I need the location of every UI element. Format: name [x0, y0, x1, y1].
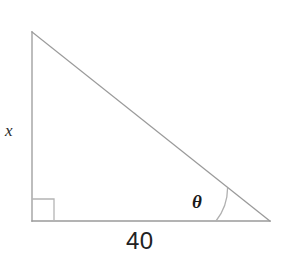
angle-arc [216, 188, 228, 221]
angle-theta-label: θ [192, 192, 202, 211]
vertical-leg-label: x [5, 122, 13, 139]
right-angle-marker [32, 199, 54, 221]
hypotenuse-line [32, 32, 270, 221]
horizontal-leg-label: 40 [126, 229, 154, 253]
triangle-figure: x θ 40 [0, 0, 288, 276]
